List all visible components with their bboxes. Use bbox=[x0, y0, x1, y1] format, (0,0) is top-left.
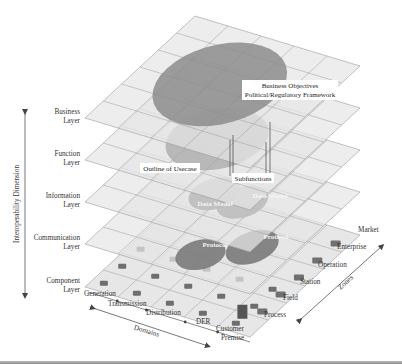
protocol-label: Protocol bbox=[202, 241, 227, 249]
domain-label-distribution: Distribution bbox=[146, 309, 181, 317]
outline-of-usecase-text: Outline of Usecase bbox=[143, 165, 196, 173]
building-icon bbox=[237, 305, 247, 319]
data-model-label: Data Model bbox=[252, 192, 287, 200]
layer-label: Information bbox=[46, 192, 81, 200]
layer-label: Business bbox=[54, 108, 80, 116]
component-icon bbox=[151, 274, 159, 279]
component-icon bbox=[100, 281, 108, 286]
component-icon bbox=[217, 294, 225, 299]
component-icon bbox=[184, 284, 192, 289]
protocol-label: Protocol bbox=[263, 233, 288, 241]
subfunctions-text: Subfunctions bbox=[235, 175, 272, 183]
domain-label-der: DER bbox=[196, 318, 211, 326]
interoperability-axis-label: Interoperability Dimension bbox=[13, 165, 21, 243]
domain-label-transmission: Transmission bbox=[108, 300, 147, 308]
data-model-label: Data Model bbox=[197, 200, 232, 208]
component-icon bbox=[118, 264, 126, 269]
domain-label-premise: Premise bbox=[221, 334, 244, 342]
zone-label-field: Field bbox=[283, 294, 298, 302]
sgam-diagram: Interoperability Dimension BusinessLayer… bbox=[0, 0, 402, 364]
layer-label: Layer bbox=[63, 117, 80, 125]
business-objectives-text: Business Objectives bbox=[262, 82, 319, 90]
layer-label: Function bbox=[54, 150, 80, 158]
zone-label-market: Market bbox=[358, 226, 379, 234]
component-icon bbox=[250, 304, 258, 309]
zone-label-operation: Operation bbox=[318, 261, 347, 269]
zone-label-process: Process bbox=[264, 311, 286, 319]
political-regulatory-text: Political/Regulatory Framework bbox=[245, 91, 336, 99]
domain-label-generation: Generation bbox=[84, 290, 116, 298]
layer-label: Layer bbox=[63, 201, 80, 209]
zone-label-station: Station bbox=[300, 278, 321, 286]
component-icon bbox=[133, 291, 141, 296]
layer-label: Component bbox=[46, 277, 80, 285]
component-icon bbox=[269, 287, 277, 292]
component-icon bbox=[199, 311, 207, 316]
domain-label-customer: Customer bbox=[216, 325, 245, 333]
layer-label: Layer bbox=[63, 243, 80, 251]
layer-label: Layer bbox=[63, 159, 80, 167]
zone-label-enterprise: Enterprise bbox=[337, 243, 367, 251]
layer-label: Layer bbox=[63, 286, 80, 294]
layer-label: Communication bbox=[34, 234, 81, 242]
component-icon bbox=[166, 301, 174, 306]
domain-boundary-marker bbox=[184, 321, 187, 324]
zones-axis-label: Zones bbox=[336, 274, 355, 292]
